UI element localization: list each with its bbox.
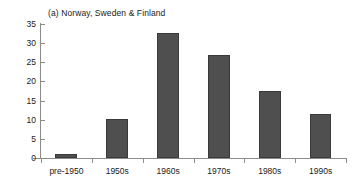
- plot-area: [41, 24, 346, 158]
- x-axis-tick: [295, 158, 296, 163]
- y-axis-tick-label: 5: [6, 134, 36, 144]
- bar: [157, 33, 179, 158]
- y-axis-tick-label: 25: [6, 57, 36, 67]
- x-axis-line: [33, 158, 346, 159]
- x-axis-tick: [92, 158, 93, 163]
- x-axis-tick: [194, 158, 195, 163]
- bar: [310, 114, 332, 158]
- y-axis-tick-label: 10: [6, 115, 36, 125]
- bar: [208, 55, 230, 158]
- x-axis-tick-label: pre-1950: [49, 166, 83, 176]
- bar-chart: (a) Norway, Sweden & Finland 05101520253…: [0, 0, 354, 185]
- x-axis-tick-label: 1970s: [207, 166, 230, 176]
- bar: [259, 91, 281, 158]
- x-axis-tick-label: 1990s: [309, 166, 332, 176]
- y-axis-tick-label: 20: [6, 76, 36, 86]
- y-axis-tick-label: 0: [6, 153, 36, 163]
- y-axis-tick-label: 35: [6, 19, 36, 29]
- x-axis-tick: [346, 158, 347, 163]
- bar: [106, 119, 128, 158]
- x-axis-tick-label: 1980s: [258, 166, 281, 176]
- chart-title: (a) Norway, Sweden & Finland: [48, 8, 165, 18]
- x-axis-tick-label: 1960s: [156, 166, 179, 176]
- x-axis-tick: [41, 158, 42, 163]
- x-axis-tick: [244, 158, 245, 163]
- y-axis-tick-label: 15: [6, 96, 36, 106]
- bar: [55, 154, 77, 158]
- y-axis-tick-label: 30: [6, 38, 36, 48]
- x-axis-tick: [143, 158, 144, 163]
- x-axis-tick-label: 1950s: [106, 166, 129, 176]
